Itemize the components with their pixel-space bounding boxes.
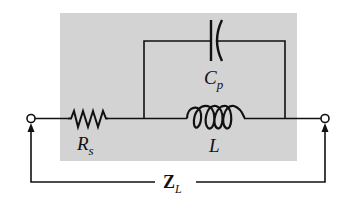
arrow-up-right-icon bbox=[322, 123, 329, 132]
left-terminal bbox=[27, 115, 35, 123]
label-ZL: ZL bbox=[163, 172, 182, 196]
shaded-region bbox=[60, 13, 297, 161]
right-terminal bbox=[321, 115, 329, 123]
circuit-diagram: Rs L Cp ZL bbox=[0, 0, 352, 199]
arrow-up-left-icon bbox=[28, 123, 35, 132]
label-L: L bbox=[208, 135, 220, 156]
